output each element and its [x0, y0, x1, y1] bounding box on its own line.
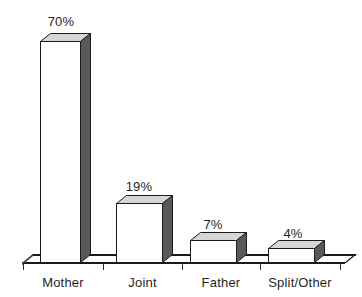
plot-area: 70% 19% 7% — [0, 0, 362, 297]
bar-father[interactable] — [190, 232, 247, 264]
bar-joint[interactable] — [116, 195, 173, 264]
bar-mother[interactable] — [40, 33, 92, 264]
x-axis-label-father: Father — [182, 275, 260, 290]
x-axis-label-mother: Mother — [23, 275, 103, 290]
x-axis-label-joint: Joint — [103, 275, 182, 290]
bar-value-label-mother: 70% — [38, 14, 84, 29]
bar-value-label-joint: 19% — [116, 179, 162, 194]
x-axis-tick-0 — [23, 264, 24, 270]
x-axis-floor-right-edge — [338, 252, 358, 266]
bar-value-label-father: 7% — [192, 217, 234, 232]
bar-split-other-front-face — [268, 248, 315, 263]
x-axis-tick-2 — [182, 264, 183, 270]
bar-mother-front-face — [40, 41, 81, 263]
x-axis-tick-3 — [260, 264, 261, 270]
x-axis-tick-1 — [103, 264, 104, 270]
x-axis-tick-4 — [340, 264, 341, 270]
bar-value-label-split-other: 4% — [272, 226, 314, 241]
x-axis-label-split-other: Split/Other — [258, 275, 342, 290]
bar-father-front-face — [190, 240, 237, 263]
bar-split-other[interactable] — [268, 240, 325, 264]
bar-joint-front-face — [116, 203, 163, 263]
bar-chart-figure: 70% 19% 7% — [0, 0, 362, 297]
